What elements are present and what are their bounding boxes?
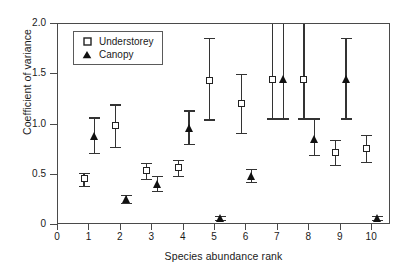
error-bar-cap-lower bbox=[204, 119, 215, 120]
x-tick bbox=[88, 224, 89, 230]
y-tick-label: 2.0 bbox=[2, 18, 46, 28]
x-tick bbox=[214, 224, 215, 230]
error-bar-cap-upper bbox=[152, 176, 163, 177]
error-bar-cap-lower bbox=[361, 162, 372, 163]
x-tick-label: 3 bbox=[138, 231, 164, 242]
legend-item-canopy: Canopy bbox=[79, 48, 153, 61]
error-bar-cap-lower bbox=[79, 186, 90, 187]
error-bar-cap-upper bbox=[361, 135, 372, 136]
x-tick bbox=[371, 224, 372, 230]
error-bar-cap-lower bbox=[341, 118, 352, 119]
data-point-canopy bbox=[342, 75, 350, 83]
x-tick-label: 5 bbox=[201, 231, 227, 242]
legend-item-understorey: Understorey bbox=[79, 35, 153, 48]
data-point-canopy bbox=[90, 132, 98, 140]
data-point-understorey bbox=[238, 100, 245, 107]
error-bar-cap-upper bbox=[341, 38, 352, 39]
x-tick bbox=[277, 224, 278, 230]
error-bar-cap-lower bbox=[173, 176, 184, 177]
legend-label-canopy: Canopy bbox=[95, 49, 133, 60]
error-bar-cap-lower bbox=[267, 118, 278, 119]
data-point-canopy bbox=[185, 124, 193, 132]
y-tick bbox=[50, 224, 57, 225]
error-bar-cap-lower bbox=[121, 203, 132, 204]
y-tick bbox=[50, 73, 57, 74]
figure: Coefficient of variance Species abundanc… bbox=[0, 0, 408, 275]
legend: Understorey Canopy bbox=[73, 31, 163, 65]
y-tick-label: 1.0 bbox=[2, 119, 46, 129]
error-bar-cap-upper bbox=[246, 169, 257, 170]
x-tick-label: 2 bbox=[107, 231, 133, 242]
error-bar-cap-upper bbox=[79, 173, 90, 174]
error-bar bbox=[272, 24, 273, 118]
error-bar bbox=[303, 24, 304, 118]
filled-triangle-icon bbox=[79, 50, 95, 59]
error-bar-cap-upper bbox=[330, 140, 341, 141]
data-point-understorey bbox=[332, 149, 339, 156]
error-bar-cap-upper bbox=[204, 38, 215, 39]
y-tick bbox=[50, 23, 57, 24]
y-tick-label: 0 bbox=[2, 219, 46, 229]
y-tick bbox=[50, 124, 57, 125]
data-point-understorey bbox=[269, 76, 276, 83]
x-tick bbox=[245, 224, 246, 230]
x-tick bbox=[120, 224, 121, 230]
error-bar-cap-upper bbox=[110, 104, 121, 105]
data-point-understorey bbox=[143, 167, 150, 174]
error-bar-cap-lower bbox=[89, 153, 100, 154]
x-tick bbox=[308, 224, 309, 230]
data-point-understorey bbox=[300, 76, 307, 83]
y-tick bbox=[50, 174, 57, 175]
data-point-understorey bbox=[175, 164, 182, 171]
error-bar-cap-lower bbox=[141, 179, 152, 180]
x-tick-label: 7 bbox=[264, 231, 290, 242]
error-bar-cap-lower bbox=[246, 182, 257, 183]
error-bar-cap-lower bbox=[184, 144, 195, 145]
data-point-understorey bbox=[112, 122, 119, 129]
x-tick-label: 6 bbox=[232, 231, 258, 242]
error-bar-cap-lower bbox=[152, 191, 163, 192]
x-tick bbox=[151, 224, 152, 230]
error-bar-cap-lower bbox=[236, 133, 247, 134]
error-bar-cap-upper bbox=[89, 117, 100, 118]
open-square-icon bbox=[79, 37, 95, 46]
error-bar-cap-upper bbox=[184, 110, 195, 111]
error-bar-cap-lower bbox=[278, 118, 289, 119]
x-tick-label: 8 bbox=[295, 231, 321, 242]
x-tick bbox=[340, 224, 341, 230]
error-bar-cap-lower bbox=[110, 147, 121, 148]
data-point-canopy bbox=[122, 195, 130, 203]
x-tick bbox=[57, 224, 58, 230]
error-bar-cap-upper bbox=[141, 163, 152, 164]
error-bar-cap-upper bbox=[173, 160, 184, 161]
data-point-understorey bbox=[81, 175, 88, 182]
data-point-canopy bbox=[216, 214, 224, 222]
error-bar-cap-lower bbox=[330, 165, 341, 166]
data-point-canopy bbox=[247, 172, 255, 180]
data-point-canopy bbox=[373, 214, 381, 222]
y-tick-label: 1.5 bbox=[2, 68, 46, 78]
error-bar-cap-lower bbox=[298, 118, 309, 119]
x-tick-label: 0 bbox=[44, 231, 70, 242]
data-point-understorey bbox=[363, 145, 370, 152]
x-tick bbox=[183, 224, 184, 230]
y-tick-label: 0.5 bbox=[2, 169, 46, 179]
data-point-canopy bbox=[279, 75, 287, 83]
error-bar bbox=[283, 24, 284, 118]
x-tick-label: 10 bbox=[358, 231, 384, 242]
error-bar-cap-upper bbox=[236, 74, 247, 75]
data-point-understorey bbox=[206, 77, 213, 84]
error-bar-cap-lower bbox=[309, 155, 320, 156]
x-tick-label: 4 bbox=[170, 231, 196, 242]
x-axis-title: Species abundance rank bbox=[57, 250, 390, 262]
data-point-canopy bbox=[153, 180, 161, 188]
error-bar-cap-upper bbox=[309, 118, 320, 119]
x-tick-label: 1 bbox=[75, 231, 101, 242]
x-tick-label: 9 bbox=[327, 231, 353, 242]
data-point-canopy bbox=[310, 135, 318, 143]
legend-label-understorey: Understorey bbox=[95, 36, 153, 47]
